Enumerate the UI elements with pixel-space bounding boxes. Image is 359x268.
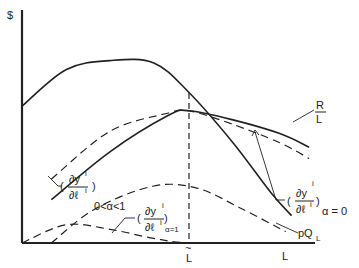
svg-text:∂y: ∂y [69,173,80,185]
l-tilde-label: L [186,252,192,264]
svg-text:): ) [316,195,320,207]
svg-text:∂ℓ: ∂ℓ [145,221,154,233]
svg-text:i: i [85,169,87,178]
alpha1-label: ( ∂y i ∂ℓ i ) α=1 [137,201,179,234]
alpha0-leader [255,132,285,200]
alpha-mid-label: ( ∂y i ∂ℓ i ) 0<α<1 [60,169,125,212]
svg-text:i: i [310,200,312,209]
svg-text:): ) [92,180,96,192]
svg-text:i: i [85,186,87,195]
svg-text:(: ( [60,180,64,192]
series-0-line [22,59,292,215]
svg-text:∂y: ∂y [296,187,307,199]
rl-label-den: L [316,113,322,125]
svg-text:α = 0: α = 0 [322,205,347,217]
svg-text:∂ℓ: ∂ℓ [296,203,305,215]
x-axis-label: L [282,250,288,262]
svg-text:i: i [312,179,314,188]
svg-text:(: ( [137,212,141,224]
pql-label: pQ [298,227,313,239]
pql-subscript: L [316,234,321,243]
chart: $ L ~ L R L ( ∂y i ∂ℓ i ) α = 0 pQ L ( ∂… [0,0,359,268]
svg-text:i: i [160,218,162,227]
alpha0-label: ( ∂y i ∂ℓ i ) α = 0 [287,179,347,217]
svg-text:(: ( [287,195,291,207]
series-2-line [51,110,309,179]
svg-text:i: i [162,201,164,210]
series-1-line [51,110,309,200]
svg-text:∂ℓ: ∂ℓ [69,189,78,201]
svg-text:α=1: α=1 [165,225,179,234]
rl-label-num: R [316,99,324,111]
y-axis-label: $ [7,9,13,21]
svg-text:∂y: ∂y [145,205,156,217]
rl-leader [293,110,314,122]
series-4-line [22,224,256,243]
svg-text:): ) [164,212,168,224]
svg-text:0<α<1: 0<α<1 [94,200,125,212]
